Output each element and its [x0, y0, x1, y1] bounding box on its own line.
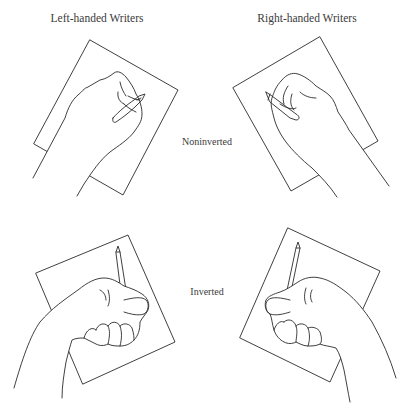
- handwriting-posture-diagram: [0, 0, 406, 410]
- right-noninverted-illustration: [233, 37, 389, 197]
- left-inverted-illustration: [14, 235, 175, 398]
- right-inverted-illustration: [240, 228, 396, 402]
- left-noninverted-illustration: [33, 40, 178, 196]
